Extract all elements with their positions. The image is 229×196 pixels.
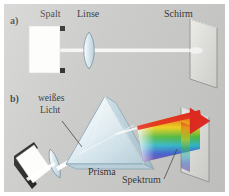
label-weisses-licht-line1: weißes: [38, 94, 64, 104]
label-schirm: Schirm: [164, 9, 193, 20]
label-linse: Linse: [77, 9, 99, 20]
spectrum-on-screen: [181, 122, 190, 172]
screen-a: [189, 19, 217, 88]
leader-weisses-licht: [62, 121, 82, 147]
label-spektrum: Spektrum: [122, 175, 161, 186]
beam-a: [44, 49, 204, 53]
lens-a: [84, 32, 95, 69]
lens-b: [49, 149, 60, 178]
figure-canvas: a) Spalt Linse Schirm b) weißes Licht Pr…: [4, 4, 225, 192]
slit-b: [14, 142, 51, 189]
label-spalt: Spalt: [40, 9, 61, 20]
label-weisses-licht-line2: Licht: [40, 106, 60, 116]
panel-b-label: b): [10, 94, 19, 105]
panel-a-label: a): [10, 16, 18, 27]
slit-a: [29, 26, 65, 73]
label-prisma: Prisma: [88, 167, 116, 178]
figure-root: a) Spalt Linse Schirm b) weißes Licht Pr…: [0, 0, 229, 196]
panel-a-optics: [29, 19, 217, 88]
